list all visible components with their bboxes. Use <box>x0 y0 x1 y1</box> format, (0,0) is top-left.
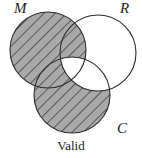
label-c: C <box>117 120 128 136</box>
label-m: M <box>13 0 28 16</box>
venn-diagram: M R C Valid <box>0 0 142 158</box>
shaded-region <box>10 12 110 133</box>
label-r: R <box>119 0 129 16</box>
caption-valid: Valid <box>57 138 85 153</box>
